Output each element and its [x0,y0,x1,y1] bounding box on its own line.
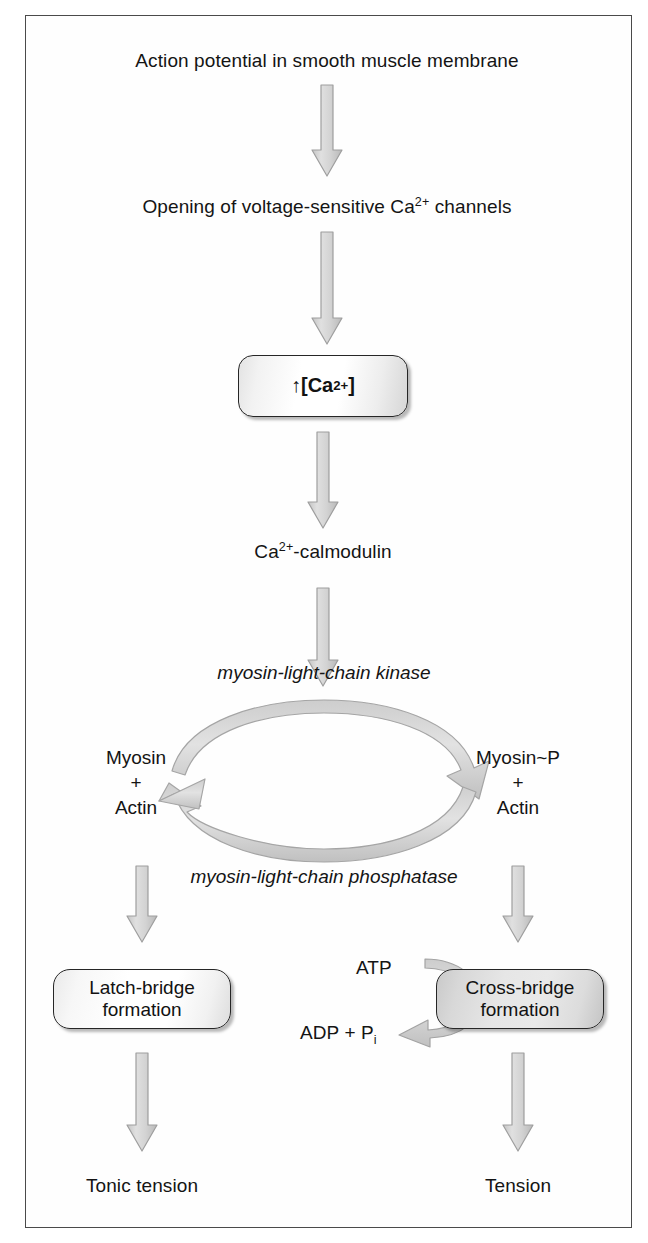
inorganic-phosphate-subscript: i [374,1033,377,1047]
cross-line-1: Cross-bridge [466,977,575,999]
calcium-concentration-box: ↑ [Ca2+] [238,355,408,417]
actin-label-left: Actin [106,795,166,820]
cycle-node-myosin-actin: Myosin + Actin [106,745,166,820]
enzyme-label-kinase: myosin-light-chain kinase [217,662,430,684]
adp-text: ADP + P [300,1022,374,1043]
cycle-node-myosinp-actin: Myosin~P + Actin [476,745,560,820]
latch-line-2: formation [89,999,195,1021]
calmodulin-text-pre: Ca [254,541,279,562]
channel-text-pre: Opening of voltage-sensitive Ca [142,196,414,217]
enzyme-label-phosphatase: myosin-light-chain phosphatase [190,866,457,888]
up-arrow-icon: ↑ [291,374,301,398]
myosin-phosphate-label: Myosin~P [476,745,560,770]
channel-text-post: channels [429,196,511,217]
outcome-tonic-tension: Tonic tension [86,1175,198,1197]
calcium-text-post: ] [348,374,355,398]
step-calmodulin: Ca2+-calmodulin [254,541,391,563]
atp-label: ATP [356,957,392,979]
latch-line-1: Latch-bridge [89,977,195,999]
adp-phosphate-label: ADP + Pi [300,1022,377,1044]
plus-sign-left: + [106,770,166,795]
actin-label-right: Actin [476,795,560,820]
cross-bridge-box: Cross-bridge formation [436,969,604,1029]
latch-bridge-box: Latch-bridge formation [53,969,231,1029]
outcome-tension: Tension [485,1175,551,1197]
pathway-figure: Action potential in smooth muscle membra… [0,0,648,1243]
plus-sign-right: + [476,770,560,795]
cross-line-2: formation [466,999,575,1021]
channel-charge-superscript: 2+ [415,195,430,209]
myosin-label: Myosin [106,745,166,770]
step-action-potential: Action potential in smooth muscle membra… [135,50,518,72]
calmodulin-text-post: -calmodulin [293,541,391,562]
calcium-text-pre: [Ca [301,374,333,398]
calmodulin-charge-superscript: 2+ [279,540,294,554]
step-channel-opening: Opening of voltage-sensitive Ca2+ channe… [142,196,511,218]
